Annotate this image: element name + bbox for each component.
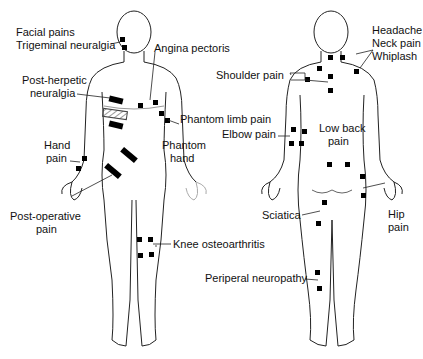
label-whiplash: Whiplash bbox=[372, 50, 417, 63]
back-electrodes bbox=[289, 55, 366, 291]
tens-placement-diagram: Facial pains Trigeminal neuralgia Angina… bbox=[0, 0, 423, 359]
label-phantom-hand: hand bbox=[170, 152, 194, 165]
label-phantom: Phantom bbox=[162, 139, 206, 152]
label-post-operative-pain: pain bbox=[36, 223, 57, 236]
label-post-operative: Post-operative bbox=[10, 210, 81, 223]
label-trigeminal-neuralgia: Trigeminal neuralgia bbox=[16, 39, 115, 52]
front-body-outline bbox=[62, 11, 207, 346]
label-hand: Hand bbox=[44, 139, 70, 152]
label-hip-pain: pain bbox=[388, 221, 409, 234]
label-headache: Headache bbox=[372, 24, 422, 37]
label-peripheral-neuropathy: Periperal neuropathy bbox=[205, 272, 307, 285]
label-hand-pain: pain bbox=[46, 152, 67, 165]
label-low-back-pain: pain bbox=[328, 135, 349, 148]
label-post-herpetic: Post-herpetic bbox=[22, 74, 87, 87]
label-neck-pain: Neck pain bbox=[372, 37, 421, 50]
label-facial-pains: Facial pains bbox=[16, 26, 75, 39]
label-elbow-pain: Elbow pain bbox=[222, 128, 276, 141]
label-knee-osteoarthritis: Knee osteoarthritis bbox=[173, 238, 265, 251]
label-hip: Hip bbox=[388, 208, 405, 221]
label-phantom-limb-pain: Phantom limb pain bbox=[180, 113, 271, 126]
hatched-area bbox=[103, 108, 128, 119]
label-low-back: Low back bbox=[319, 122, 365, 135]
label-angina-pectoris: Angina pectoris bbox=[154, 42, 230, 55]
label-sciatica: Sciatica bbox=[262, 209, 301, 222]
front-electrodes bbox=[76, 37, 170, 258]
label-shoulder-pain: Shoulder pain bbox=[216, 69, 284, 82]
label-neuralgia: neuralgia bbox=[30, 87, 75, 100]
